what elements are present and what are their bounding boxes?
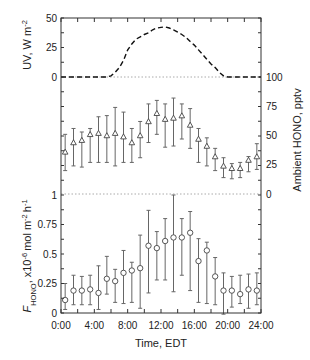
triangle-marker (62, 149, 68, 154)
circle-marker (104, 276, 109, 281)
y-tick-label-left: 0.25 (38, 278, 58, 289)
data-point (121, 112, 127, 162)
x-tick-label: 20:00 (215, 320, 240, 331)
triangle-marker (146, 119, 152, 124)
y-axis-label-uv: UV, W m-2 (20, 20, 34, 70)
data-point (96, 266, 101, 310)
data-point (121, 250, 126, 303)
circle-marker (146, 243, 151, 248)
y-tick-label-left: 0 (51, 72, 57, 83)
circle-marker (162, 238, 167, 243)
flux-label-exp-2: -2 (20, 214, 29, 221)
triangle-marker (121, 134, 127, 139)
axis-ticks (61, 18, 261, 313)
x-tick-label: 24:00 (248, 320, 273, 331)
data-point (237, 275, 242, 303)
circle-marker (196, 258, 201, 263)
triangle-marker (104, 133, 110, 138)
circle-marker (179, 235, 184, 240)
circle-marker (121, 270, 126, 275)
y-tick-label-right: 100 (266, 72, 283, 83)
y-axis-label-hono: Ambient HONO, pptv (291, 88, 303, 192)
y-tick-label-right: 25 (266, 159, 278, 170)
data-point (229, 276, 234, 307)
flux-label-unit-1: mol m (21, 221, 33, 251)
y-tick-label-left: 0.5 (43, 249, 57, 260)
triangle-marker (96, 130, 102, 135)
circle-marker (254, 288, 259, 293)
circle-marker (112, 278, 117, 283)
x-tick-label: 16:00 (182, 320, 207, 331)
data-point (137, 121, 143, 157)
data-point (162, 104, 168, 147)
data-point (96, 117, 102, 163)
circle-marker (79, 288, 84, 293)
data-point (237, 162, 243, 177)
circle-marker (212, 274, 217, 279)
data-point (254, 273, 259, 305)
x-tick-label: 0:00 (51, 320, 71, 331)
data-point (212, 258, 217, 305)
y-tick-label-right: 0 (266, 189, 272, 200)
triangle-marker (196, 136, 202, 141)
triangle-marker (237, 165, 243, 170)
y-tick-label-left: 0.75 (38, 219, 58, 230)
plot-frame (61, 18, 261, 313)
data-point (104, 256, 109, 294)
circle-marker (137, 265, 142, 270)
chart-figure: 0:004:008:0012:0016:0020:0024:0002550025… (0, 0, 310, 360)
data-point (196, 128, 202, 162)
circle-marker (71, 288, 76, 293)
data-point (137, 235, 142, 308)
data-point (79, 276, 84, 304)
x-tick-label: 12:00 (148, 320, 173, 331)
y-tick-label-left: 0 (51, 308, 57, 319)
data-point (246, 274, 251, 308)
circle-marker (87, 287, 92, 292)
data-point (104, 116, 110, 163)
circle-marker (96, 290, 101, 295)
uv-line (61, 27, 261, 77)
data-point (179, 219, 184, 276)
circle-marker (229, 288, 234, 293)
triangle-marker (162, 116, 168, 121)
triangle-marker (187, 122, 193, 127)
data-point (146, 104, 152, 143)
triangle-marker (221, 163, 227, 168)
data-point (187, 109, 193, 149)
triangle-marker (129, 140, 135, 145)
data-point (162, 219, 167, 280)
data-point (129, 262, 134, 302)
data-point (71, 275, 76, 305)
flux-label-multiplier: , x10 (21, 260, 33, 284)
x-tick-label: 8:00 (118, 320, 138, 331)
data-point (229, 164, 235, 179)
circle-marker (187, 230, 192, 235)
tick-labels: 0:004:008:0012:0016:0020:0024:0002550025… (38, 13, 284, 332)
flux-label-subscript: HONO (29, 283, 38, 306)
y-axis-label-uv-sup: -2 (20, 20, 29, 27)
triangle-marker (204, 143, 210, 148)
triangle-marker (179, 113, 185, 118)
data-series (61, 27, 261, 314)
y-tick-label-right: 50 (266, 130, 278, 141)
circle-marker (129, 268, 134, 273)
triangle-marker (254, 154, 260, 159)
data-point (112, 269, 117, 302)
y-tick-label-left: 1 (51, 190, 57, 201)
data-point (212, 148, 218, 170)
data-point (71, 128, 77, 165)
circle-marker (204, 248, 209, 253)
data-point (129, 128, 135, 162)
data-point (171, 195, 176, 292)
data-point (246, 157, 252, 172)
data-point (79, 132, 85, 167)
data-point (204, 138, 210, 166)
triangle-marker (112, 130, 118, 135)
circle-marker (246, 287, 251, 292)
x-tick-label: 4:00 (85, 320, 105, 331)
y-tick-label-right: 75 (266, 101, 278, 112)
triangle-marker (79, 137, 85, 142)
data-point (179, 104, 185, 139)
data-point (221, 158, 227, 178)
